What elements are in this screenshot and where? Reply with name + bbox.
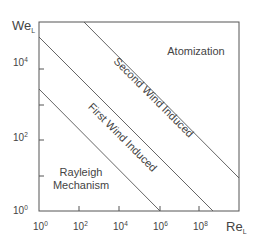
svg-text:108: 108 — [193, 220, 208, 232]
y-tick-labels: 104 102 100 — [13, 56, 28, 216]
y-axis-ticks — [39, 69, 44, 176]
x-axis-title: ReL — [226, 219, 247, 235]
rayleigh-label-line1: Rayleigh — [60, 166, 103, 178]
second-wind-label: Second Wind Induced — [112, 55, 197, 140]
svg-text:102: 102 — [73, 220, 88, 232]
svg-text:104: 104 — [113, 220, 128, 232]
x-axis-ticks — [79, 206, 199, 211]
y-axis-title: WeL — [12, 18, 35, 34]
first-wind-label: First Wind Induced — [86, 101, 159, 174]
svg-text:100: 100 — [13, 204, 28, 216]
svg-text:102: 102 — [13, 131, 28, 143]
svg-text:106: 106 — [153, 220, 168, 232]
rayleigh-label-line2: Mechanism — [53, 179, 109, 191]
x-tick-labels: 100 102 104 106 108 — [33, 220, 208, 232]
atomization-label: Atomization — [167, 45, 224, 57]
svg-text:100: 100 — [33, 220, 48, 232]
regime-chart: 104 102 100 100 102 104 106 108 WeL ReL … — [0, 0, 256, 241]
svg-text:104: 104 — [13, 56, 28, 68]
